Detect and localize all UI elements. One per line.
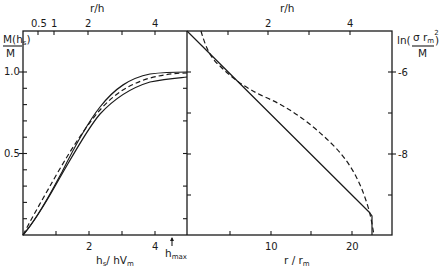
left-top-tick-4: 4 xyxy=(152,18,158,29)
left-dashed-curve xyxy=(23,73,187,235)
right-x-axis-title: r / rm xyxy=(284,254,310,268)
right-curves xyxy=(187,31,374,235)
left-curves xyxy=(23,72,187,235)
svg-text:): ) xyxy=(435,34,439,46)
left-ytick-0.5: 0.5 xyxy=(4,148,20,159)
right-dashed-curve xyxy=(201,31,374,235)
right-xtick-20: 20 xyxy=(346,241,359,252)
left-top-axis-title: r/h xyxy=(90,2,105,14)
plot-frame xyxy=(23,31,392,235)
right-ytick--6: -6 xyxy=(398,67,408,78)
hmax-annotation: hmax xyxy=(165,237,187,261)
right-top-tick-2: 2 xyxy=(265,18,271,29)
right-ytick--8: -8 xyxy=(398,149,408,160)
left-top-tick-0.5: 0.5 xyxy=(31,18,47,29)
svg-text:M(hs): M(hs) xyxy=(3,33,31,47)
left-ytick-1.0: 1.0 xyxy=(4,66,20,77)
right-xtick-10: 10 xyxy=(265,241,278,252)
left-top-tick-2: 2 xyxy=(85,18,91,29)
right-y-ticks xyxy=(187,72,396,195)
left-y-axis-title: M(hs) M xyxy=(3,33,31,59)
left-top-tick-1: 1 xyxy=(51,18,57,29)
svg-text:M: M xyxy=(418,47,427,59)
svg-text:M: M xyxy=(6,47,15,59)
svg-text:ln(: ln( xyxy=(397,34,411,46)
chart: M(hs) M 1.0 0.5 r/h 0.5 1 2 4 r/h 2 4 ln… xyxy=(0,0,442,271)
left-xtick-2: 2 xyxy=(86,241,92,252)
svg-text:hmax: hmax xyxy=(165,247,187,261)
left-solid-upper-curve xyxy=(23,72,187,235)
left-x-axis-title: hs/ hVm xyxy=(96,254,134,268)
left-xtick-4: 4 xyxy=(152,241,158,252)
right-top-axis-title: r/h xyxy=(280,2,295,14)
right-y-axis-title: ln( σ rm2 M ) xyxy=(397,29,439,59)
right-top-tick-4: 4 xyxy=(347,18,353,29)
